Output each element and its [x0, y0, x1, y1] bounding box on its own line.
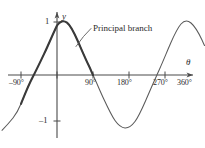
x-tick-label-270: 270°	[153, 79, 168, 87]
y-tick-label-minus-1: –1	[39, 116, 48, 125]
x-tick-label-360: 360°	[177, 79, 192, 87]
sine-curve-figure: y θ 1 –1 –90° 90° 180° 270° 360° Princip…	[0, 0, 205, 148]
annotation-leader-line	[76, 29, 91, 47]
x-tick-label-minus-90: –90°	[9, 79, 24, 87]
x-tick-label-90: 90°	[85, 79, 96, 87]
principal-branch-annotation: Principal branch	[93, 24, 152, 33]
y-tick-label-1: 1	[45, 17, 49, 26]
x-tick-label-180: 180°	[117, 79, 132, 87]
y-axis-label: y	[62, 12, 66, 21]
theta-axis-label: θ	[186, 58, 190, 67]
